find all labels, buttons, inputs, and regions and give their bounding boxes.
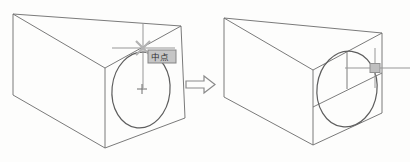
wedge-edges-before xyxy=(13,14,185,148)
construction-lines xyxy=(313,52,382,107)
panel-before: 中点 xyxy=(13,14,185,148)
wedge-edges-after xyxy=(224,18,382,145)
pickbox-icon xyxy=(370,64,380,73)
ellipse-center-marker xyxy=(137,84,147,94)
panel-after xyxy=(224,18,410,145)
cad-canvas[interactable]: 中点 xyxy=(0,0,410,162)
transform-arrow-icon xyxy=(186,76,215,93)
cad-move-ellipse-figure: 中点 xyxy=(0,0,410,162)
osnap-tooltip: 中点 xyxy=(148,50,176,63)
osnap-tooltip-label: 中点 xyxy=(151,52,169,62)
